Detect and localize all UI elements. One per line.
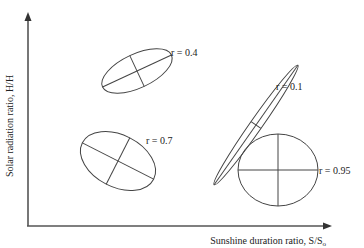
y-axis-label: Solar radiation ratio, H/H [4,75,15,177]
x-axis-label-main: Sunshine duration ratio, S/S [210,235,322,246]
y-axis-arrow-icon [25,12,32,21]
x-axis-label: Sunshine duration ratio, S/So [210,235,326,248]
ellipse-r07-minor-axis [106,138,130,184]
ellipse-r04-minor-axis [130,56,144,87]
label-r01: r = 0.1 [276,81,302,92]
ellipse-group-r07 [71,120,166,203]
x-axis-arrow-icon [323,223,332,230]
x-axis-label-subscript: o [323,240,327,248]
correlation-ellipse-diagram: Solar radiation ratio, H/H Sunshine dura… [0,0,364,248]
ellipse-r01-minor-axis [251,122,261,129]
label-r07: r = 0.7 [146,135,172,146]
ellipse-group-r04 [95,40,178,103]
ellipse-group-r095 [238,134,318,206]
label-r095: r = 0.95 [319,165,350,176]
label-r04: r = 0.4 [171,47,197,58]
